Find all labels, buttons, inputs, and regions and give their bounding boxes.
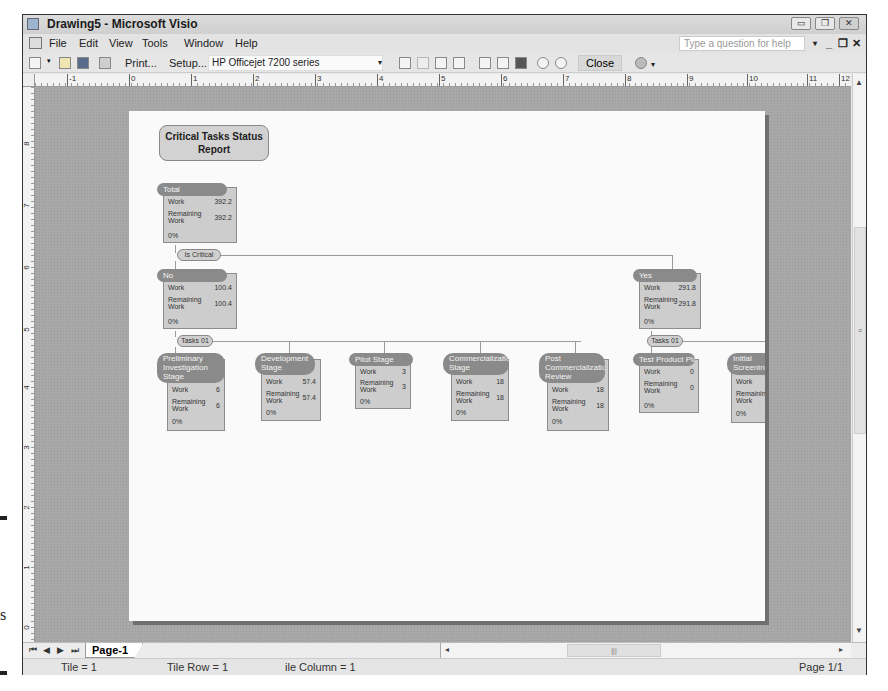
- tasks-pill[interactable]: Tasks 01: [647, 335, 683, 347]
- help-dropdown-arrow[interactable]: ▾: [813, 39, 817, 48]
- printer-select[interactable]: HP Officejet 7200 series: [208, 55, 383, 71]
- minimize-button[interactable]: ▭: [791, 17, 811, 30]
- connector: [175, 331, 176, 337]
- restore-button[interactable]: ❐: [815, 17, 835, 30]
- close-window-button[interactable]: ✕: [839, 17, 859, 30]
- open-icon[interactable]: [59, 57, 71, 69]
- single-tile-icon[interactable]: [479, 57, 491, 69]
- last-page-nav-icon[interactable]: ⏭: [71, 645, 79, 656]
- ruler-tick: 10: [749, 74, 758, 83]
- task-node-partial[interactable]: Initial Screening Work RemainingWork 0%: [727, 353, 765, 425]
- printer-icon[interactable]: [99, 57, 111, 69]
- menu-edit[interactable]: Edit: [79, 37, 98, 49]
- remaining-label: Remaining: [644, 296, 677, 303]
- scroll-right-icon[interactable]: ▸: [839, 645, 843, 654]
- task-node[interactable]: Pilot Stage Work3 RemainingWork3 0%: [349, 353, 419, 413]
- menu-view[interactable]: View: [109, 37, 133, 49]
- margin-bar: [0, 671, 7, 675]
- report-title-line1: Critical Tasks Status: [160, 130, 268, 143]
- prev-page-nav-icon[interactable]: ◀: [43, 645, 50, 655]
- percent-complete: 0%: [168, 318, 178, 325]
- remaining-label-2: Work: [266, 397, 282, 404]
- horizontal-scrollbar[interactable]: ◂ ||| ▸: [440, 643, 851, 658]
- remaining-value: 392.2: [214, 214, 232, 221]
- node-header: No: [157, 269, 227, 282]
- close-preview-button[interactable]: Close: [578, 55, 622, 71]
- next-page-icon[interactable]: [435, 57, 447, 69]
- ruler-tick: 8: [22, 141, 31, 145]
- current-view-icon[interactable]: [515, 57, 527, 69]
- remaining-label: Remaining: [552, 398, 585, 405]
- doc-restore-button[interactable]: ❐: [838, 37, 848, 50]
- first-page-nav-icon[interactable]: ⏮: [29, 645, 37, 656]
- group-node-no[interactable]: No Work100.4 RemainingWork100.4 0%: [157, 269, 237, 331]
- connector: [289, 341, 290, 353]
- doc-close-button[interactable]: ✕: [852, 37, 861, 50]
- save-icon[interactable]: [77, 57, 89, 69]
- vertical-scrollbar[interactable]: ▲ ≡ ▼: [852, 74, 866, 642]
- work-value: 6: [216, 386, 220, 393]
- scroll-left-icon[interactable]: ◂: [445, 645, 449, 654]
- print-preview-page: Critical Tasks Status Report Total Work3…: [129, 111, 765, 621]
- whole-page-icon[interactable]: [497, 57, 509, 69]
- ruler-corner[interactable]: [23, 74, 35, 87]
- root-node[interactable]: Total Work392.2 RemainingWork392.2 0%: [157, 183, 237, 245]
- is-critical-pill[interactable]: Is Critical: [177, 249, 221, 261]
- percent-complete: 0%: [360, 398, 370, 405]
- vertical-scroll-thumb[interactable]: ≡: [854, 227, 866, 434]
- work-value: 3: [402, 368, 406, 375]
- ruler-tick: 12: [841, 74, 850, 83]
- horizontal-scroll-thumb[interactable]: |||: [567, 644, 661, 657]
- vertical-ruler[interactable]: 8 7 6 5 4 3 2 1 0: [23, 87, 35, 642]
- zoom-out-icon[interactable]: [537, 57, 549, 69]
- first-page-icon[interactable]: [399, 57, 411, 69]
- report-title-shape[interactable]: Critical Tasks Status Report: [159, 125, 269, 161]
- tasks-pill[interactable]: Tasks 01: [177, 335, 213, 347]
- help-icon[interactable]: [635, 57, 647, 69]
- group-node-yes[interactable]: Yes Work291.8 RemainingWork291.8 0%: [633, 269, 713, 331]
- work-value: 18: [496, 378, 504, 385]
- remaining-label-2: Work: [172, 405, 188, 412]
- remaining-value: 18: [496, 394, 504, 401]
- page-tab-bar: ⏮ ◀ ▶ ⏭ Page-1 ◂ ||| ▸: [23, 642, 866, 658]
- drawing-canvas[interactable]: Critical Tasks Status Report Total Work3…: [35, 87, 851, 642]
- ruler-tick: 2: [22, 505, 31, 509]
- horizontal-ruler[interactable]: -1 0 1 2 3 4 5 6 7 8 9 10 11 12: [35, 74, 851, 87]
- next-page-nav-icon[interactable]: ▶: [57, 645, 64, 655]
- menu-tools[interactable]: Tools: [142, 37, 168, 49]
- task-node[interactable]: Development Stage Work57.4 RemainingWork…: [255, 353, 325, 423]
- new-icon[interactable]: [29, 57, 41, 69]
- node-header: Total: [157, 183, 227, 196]
- menu-help[interactable]: Help: [235, 37, 258, 49]
- doc-minimize-button[interactable]: _: [826, 37, 832, 49]
- printer-dropdown-arrow[interactable]: ▾: [378, 58, 382, 67]
- menu-bar: File Edit View Tools Window Help Type a …: [23, 34, 866, 53]
- tab-page-1[interactable]: Page-1: [85, 643, 143, 658]
- percent-complete: 0%: [168, 232, 178, 239]
- visio-app-icon[interactable]: [27, 18, 39, 30]
- node-header: Preliminary Investigation Stage: [157, 353, 225, 383]
- new-dropdown-icon[interactable]: ▾: [47, 57, 55, 69]
- task-node[interactable]: Test Product Plan Work0 RemainingWork0 0…: [633, 353, 703, 413]
- task-node[interactable]: Preliminary Investigation Stage Work6 Re…: [157, 353, 237, 433]
- remaining-label: Remaining: [172, 398, 205, 405]
- remaining-value: 18: [596, 402, 604, 409]
- prev-page-icon[interactable]: [417, 57, 429, 69]
- last-page-icon[interactable]: [453, 57, 465, 69]
- setup-button[interactable]: Setup...: [169, 57, 207, 69]
- zoom-in-icon[interactable]: [555, 57, 567, 69]
- menu-window[interactable]: Window: [184, 37, 223, 49]
- help-search-input[interactable]: Type a question for help: [679, 36, 805, 51]
- document-icon[interactable]: [29, 37, 42, 49]
- scroll-up-icon[interactable]: ▲: [855, 78, 863, 87]
- ruler-tick: 8: [627, 74, 631, 83]
- remaining-label: Remaining: [736, 390, 765, 397]
- margin-letter: s: [0, 606, 6, 624]
- toolbar-options-icon[interactable]: ▾: [651, 60, 655, 69]
- task-node[interactable]: Post Commercialization Review Work18 Rem…: [539, 353, 613, 435]
- task-node[interactable]: Commercialization Stage Work18 Remaining…: [443, 353, 515, 425]
- menu-file[interactable]: File: [49, 37, 67, 49]
- scroll-down-icon[interactable]: ▼: [855, 626, 863, 635]
- print-button[interactable]: Print...: [125, 57, 157, 69]
- work-label: Work: [456, 378, 472, 385]
